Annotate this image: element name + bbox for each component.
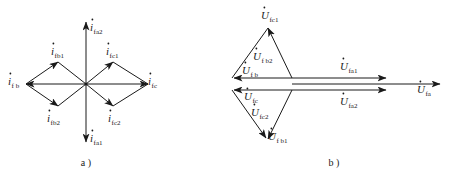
- label-i-fb-subscript: f b: [12, 82, 20, 90]
- label-u-fc2: Ufc2: [251, 104, 269, 121]
- svg-text:ifa2: ifa2: [90, 21, 103, 36]
- label-u-fb1-subscript: f b1: [276, 137, 288, 145]
- phasor-diagram-figure: ifa2 ifa1 if b ifc i: [0, 0, 450, 176]
- svg-text:Ufc: Ufc: [244, 90, 258, 105]
- label-i-fb: if b: [8, 73, 20, 90]
- label-i-fc1: ifc1: [106, 43, 119, 60]
- svg-text:ifa1: ifa1: [90, 132, 103, 147]
- panel-a: ifa2 ifa1 if b ifc i: [8, 19, 157, 169]
- svg-text:Ufa: Ufa: [417, 83, 432, 98]
- vector-u-fb2: [268, 28, 292, 78]
- label-i-fc-subscript: fc: [152, 82, 157, 90]
- label-i-fa2-subscript: fa2: [94, 28, 103, 36]
- label-u-fc1: Ufc1: [261, 7, 279, 24]
- svg-text:ifc2: ifc2: [108, 112, 121, 127]
- label-i-fc: ifc: [148, 73, 157, 90]
- vector-i-fb1-to-centre: [58, 62, 86, 84]
- svg-text:ifb2: ifb2: [47, 112, 60, 127]
- label-u-fa1-subscript: fa1: [348, 67, 357, 75]
- label-u-fa2-subscript: fa2: [348, 102, 357, 110]
- label-i-fa2: ifa2: [90, 19, 103, 36]
- label-u-fa-subscript: fa: [425, 90, 431, 98]
- label-u-fa: Ufa: [417, 81, 432, 98]
- label-u-fb2: Uf b2: [253, 48, 273, 65]
- svg-text:if b: if b: [8, 75, 20, 90]
- panel-b: Ufc1 Uf b2 Uf b Ufc: [232, 7, 440, 169]
- svg-text:ifb1: ifb1: [51, 45, 64, 60]
- svg-text:Ufa2: Ufa2: [340, 95, 358, 110]
- label-u-fa2: Ufa2: [340, 93, 358, 110]
- svg-text:Uf b: Uf b: [242, 64, 259, 79]
- label-u-fb1: Uf b1: [268, 128, 288, 145]
- label-i-fc2-subscript: fc2: [112, 119, 121, 127]
- label-u-fc2-subscript: fc2: [259, 113, 268, 121]
- label-i-fa1: ifa1: [90, 130, 103, 147]
- label-i-fb2-subscript: fb2: [51, 119, 61, 127]
- label-u-fc-subscript: fc: [252, 97, 257, 105]
- label-i-fa1-subscript: fa1: [94, 139, 103, 147]
- svg-text:ifc1: ifc1: [106, 45, 119, 60]
- label-u-fb2-subscript: f b2: [261, 57, 273, 65]
- label-u-fa1: Ufa1: [340, 58, 358, 75]
- caption-panel-a: a ): [81, 157, 91, 169]
- label-i-fb1: ifb1: [51, 43, 64, 60]
- caption-panel-b: b ): [329, 157, 340, 169]
- label-i-fc1-subscript: fc1: [110, 52, 119, 60]
- svg-text:ifc: ifc: [148, 75, 157, 90]
- svg-text:Uf b1: Uf b1: [268, 130, 288, 145]
- svg-text:Ufa1: Ufa1: [340, 60, 358, 75]
- origin-node: [84, 82, 87, 85]
- vector-i-fb2-to-centre: [58, 84, 86, 106]
- vector-i-fc2-to-tip: [113, 84, 148, 106]
- label-u-fb-subscript: f b: [250, 71, 258, 79]
- vector-i-fb1: [26, 62, 58, 84]
- label-i-fb2: ifb2: [47, 110, 60, 127]
- label-i-fc2: ifc2: [108, 110, 121, 127]
- vector-i-fb2: [26, 84, 58, 106]
- vector-i-fc1: [86, 62, 113, 84]
- vector-i-fc1-to-tip: [113, 62, 148, 84]
- label-u-fb: Uf b: [242, 62, 259, 79]
- label-i-fb1-subscript: fb1: [55, 52, 65, 60]
- svg-text:Ufc2: Ufc2: [251, 106, 269, 121]
- label-u-fc1-subscript: fc1: [269, 16, 278, 24]
- svg-text:Uf b2: Uf b2: [253, 50, 273, 65]
- svg-text:Ufc1: Ufc1: [261, 9, 279, 24]
- vector-i-fc2: [86, 84, 113, 106]
